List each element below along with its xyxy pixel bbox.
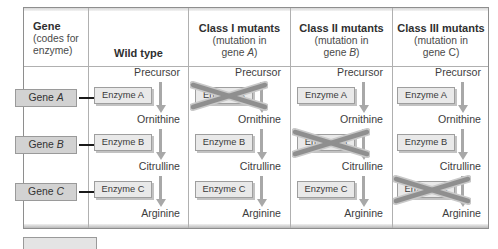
header-title-wild-type: Wild type — [89, 47, 188, 60]
cropped-element-below-table — [23, 237, 97, 249]
pathway-arrow-2 — [159, 129, 162, 153]
enzyme-box-a: Enzyme A — [94, 87, 152, 104]
gene-a-prefix: Gene — [28, 92, 53, 103]
header-cell-gene: Gene (codes for enzyme) — [24, 8, 88, 66]
pathway-wild-type: Precursor Ornithine Citrulline Arginine … — [89, 66, 188, 229]
metabolite-citrulline: Citrulline — [440, 160, 481, 172]
pathway-arrow-3 — [461, 176, 464, 200]
pathway-class-iii: Precursor Ornithine Citrulline Arginine … — [393, 66, 489, 229]
gene-c-prefix: Gene — [28, 186, 53, 197]
pathway-class-i: Precursor Ornithine Citrulline Arginine … — [189, 66, 290, 229]
header-subtitle-gene-line2: enzyme) — [33, 45, 88, 58]
header-subtitle-gene-line1: (codes for — [33, 33, 88, 46]
gene-label-b: Gene B — [15, 136, 77, 154]
header-title-gene: Gene — [33, 20, 88, 33]
gene-label-a: Gene A — [15, 89, 77, 107]
metabolite-ornithine: Ornithine — [340, 113, 383, 125]
gene-c-letter: C — [56, 186, 64, 197]
pathway-arrow-3 — [362, 176, 365, 200]
pathway-arrow-2 — [260, 129, 263, 153]
enzyme-box-a: Enzyme A — [397, 87, 455, 104]
gene-b-letter: B — [57, 139, 64, 150]
header-cell-class-ii: Class II mutants (mutation in gene B) — [291, 8, 392, 66]
enzyme-box-c: Enzyme C — [195, 181, 253, 198]
header-subtitle-class-ii-line1: (mutation in — [291, 35, 392, 48]
pathway-arrow-2 — [461, 129, 464, 153]
enzyme-box-c: Enzyme C — [94, 181, 152, 198]
metabolite-citrulline: Citrulline — [139, 160, 180, 172]
pathway-arrow-3 — [260, 176, 263, 200]
header-subtitle-class-i-line1: (mutation in — [189, 35, 290, 48]
header-subtitle-class-ii-line2: gene B) — [291, 47, 392, 60]
metabolite-ornithine: Ornithine — [238, 113, 281, 125]
gene-b-prefix: Gene — [28, 139, 53, 150]
comparison-table: Gene (codes for enzyme) Wild type Class … — [23, 7, 489, 229]
pathway-arrow-1 — [461, 82, 464, 106]
header-subtitle-class-iii-line1: (mutation in — [393, 35, 489, 48]
metabolite-precursor: Precursor — [435, 66, 481, 78]
metabolite-arginine: Arginine — [344, 207, 383, 219]
metabolite-precursor: Precursor — [134, 66, 180, 78]
enzyme-box-b: Enzyme B — [397, 134, 455, 151]
pathway-arrow-1 — [260, 82, 263, 106]
enzyme-box-c: Enzyme C — [297, 181, 355, 198]
metabolite-arginine: Arginine — [141, 207, 180, 219]
header-cell-class-i: Class I mutants (mutation in gene A) — [189, 8, 290, 66]
metabolite-citrulline: Citrulline — [342, 160, 383, 172]
pathway-arrow-2 — [362, 129, 365, 153]
metabolite-arginine: Arginine — [442, 207, 481, 219]
metabolite-precursor: Precursor — [235, 66, 281, 78]
header-subtitle-class-iii-line2: gene C) — [393, 47, 489, 60]
metabolite-precursor: Precursor — [337, 66, 383, 78]
metabolite-arginine: Arginine — [242, 207, 281, 219]
header-cell-wild-type: Wild type — [89, 8, 188, 66]
body-cell-gene: Gene A Gene B Gene C — [24, 66, 88, 229]
enzyme-box-b: Enzyme B — [195, 134, 253, 151]
gene-a-letter: A — [57, 92, 64, 103]
enzyme-box-c: Enzyme C — [397, 181, 455, 198]
pathway-class-ii: Precursor Ornithine Citrulline Arginine … — [291, 66, 392, 229]
metabolite-ornithine: Ornithine — [137, 113, 180, 125]
pathway-arrow-3 — [159, 176, 162, 200]
metabolite-citrulline: Citrulline — [240, 160, 281, 172]
enzyme-box-b: Enzyme B — [94, 134, 152, 151]
header-cell-class-iii: Class III mutants (mutation in gene C) — [393, 8, 489, 66]
header-title-class-i: Class I mutants — [189, 22, 290, 35]
header-subtitle-class-i-line2: gene A) — [189, 47, 290, 60]
pathway-arrow-1 — [159, 82, 162, 106]
enzyme-box-b: Enzyme B — [297, 134, 355, 151]
header-title-class-iii: Class III mutants — [393, 22, 489, 35]
metabolite-ornithine: Ornithine — [438, 113, 481, 125]
enzyme-box-a: Enzyme A — [297, 87, 355, 104]
gene-label-c: Gene C — [15, 183, 77, 201]
pathway-arrow-1 — [362, 82, 365, 106]
header-title-class-ii: Class II mutants — [291, 22, 392, 35]
enzyme-box-a: Enzyme A — [195, 87, 253, 104]
